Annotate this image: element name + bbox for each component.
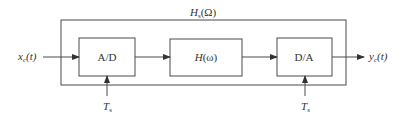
input-label: xc(t) <box>17 50 37 64</box>
outer-system-label: Hs(Ω) <box>189 6 217 20</box>
filter-label: H(ω) <box>194 51 218 64</box>
adc-clock-label: Ts <box>103 100 112 114</box>
dac-label: D/A <box>295 51 314 63</box>
block-diagram: Hs(Ω) A/D H(ω) D/A xc(t) yc(t) Ts Ts <box>0 0 411 118</box>
output-label: yc(t) <box>368 50 388 64</box>
dac-clock-label: Ts <box>301 100 310 114</box>
adc-label: A/D <box>98 51 117 63</box>
